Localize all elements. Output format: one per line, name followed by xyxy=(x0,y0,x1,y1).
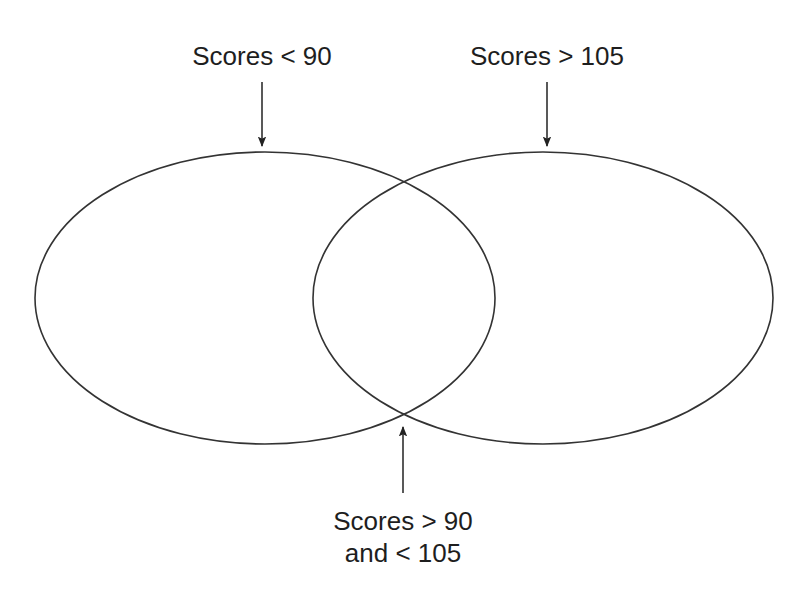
intersection-label-line2: and < 105 xyxy=(303,537,503,569)
left-set-ellipse xyxy=(35,152,495,444)
right-set-ellipse xyxy=(313,152,773,444)
intersection-label-line1: Scores > 90 xyxy=(303,505,503,537)
left-set-label: Scores < 90 xyxy=(162,40,362,72)
intersection-label: Scores > 90 and < 105 xyxy=(303,505,503,569)
right-set-label: Scores > 105 xyxy=(442,40,652,72)
